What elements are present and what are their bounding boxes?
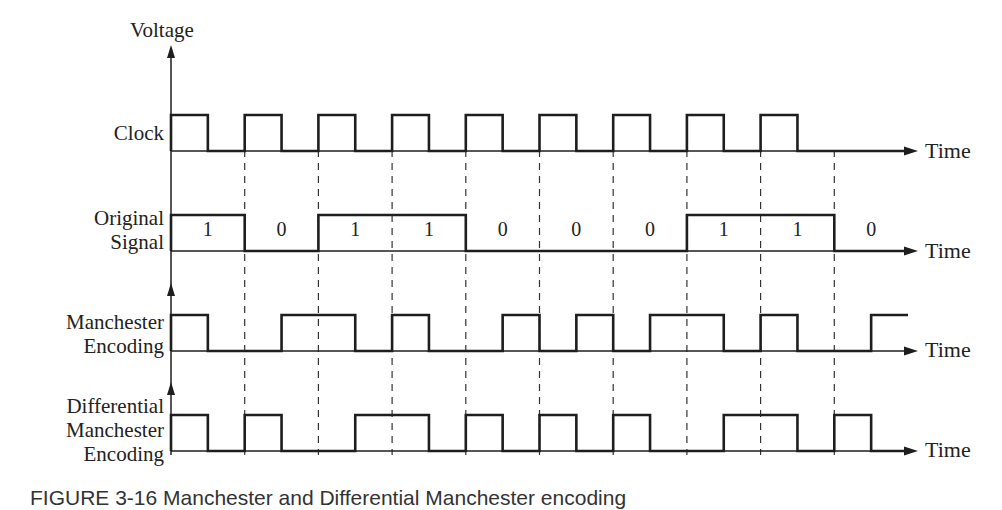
row-label-line: Signal	[94, 230, 164, 254]
bit-value-label: 1	[782, 218, 812, 241]
time-label-clock: Time	[925, 138, 971, 164]
time-axis-arrow-icon	[904, 347, 918, 356]
bit-value-label: 0	[635, 218, 665, 241]
figure-caption: FIGURE 3-16 Manchester and Differential …	[30, 486, 626, 510]
axis-arrow-icon	[167, 283, 175, 296]
axis-arrow-icon	[167, 382, 175, 395]
time-label-original: Time	[925, 238, 971, 264]
row-label-diff-manchester: Differential Manchester Encoding	[66, 394, 164, 466]
bit-value-label: 1	[414, 218, 444, 241]
row-label-clock: Clock	[114, 121, 164, 145]
bit-value-label: 1	[709, 218, 739, 241]
row-label-line: Manchester	[66, 418, 164, 442]
time-label-manchester: Time	[925, 337, 971, 363]
clock-waveform	[171, 115, 908, 151]
bit-value-label: 0	[561, 218, 591, 241]
row-label-manchester: Manchester Encoding	[66, 310, 164, 358]
voltage-axis-arrow-icon	[167, 45, 175, 58]
row-label-line: Original	[94, 206, 164, 230]
diff-manchester-waveform	[171, 415, 908, 451]
row-label-original: Original Signal	[94, 206, 164, 254]
time-label-diff: Time	[925, 437, 971, 463]
row-label-line: Encoding	[66, 334, 164, 358]
bit-value-label: 0	[856, 218, 886, 241]
row-label-line: Differential	[66, 394, 164, 418]
bit-value-label: 0	[488, 218, 518, 241]
y-axis-label: Voltage	[130, 18, 194, 42]
row-label-line: Encoding	[66, 442, 164, 466]
bit-value-label: 1	[193, 218, 223, 241]
bit-value-label: 0	[267, 218, 297, 241]
row-label-line: Manchester	[66, 310, 164, 334]
manchester-waveform	[171, 315, 908, 351]
bit-value-label: 1	[340, 218, 370, 241]
